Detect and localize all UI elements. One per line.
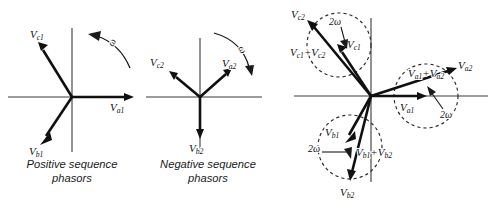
phasor-label-va1-p1: Va1: [110, 101, 124, 115]
phasor-label-vc1-p3: Vc1: [347, 38, 361, 52]
phasor-vc1-p1: [38, 42, 72, 97]
phasor-figure: Va1 Vc1 Vb1 ω: [0, 0, 495, 210]
panel-combined-sequence: Va1 Va2 Va1+Va2 2ω: [290, 8, 488, 200]
resultant-label-c-p3: Vc1+Vc2: [290, 46, 325, 60]
phasor-label-vb2-p3: Vb2: [340, 186, 355, 200]
phasor-label-vc2-p2: Vc2: [150, 56, 164, 70]
rate-label-b-p3: 2ω: [308, 143, 320, 154]
phasor-vb1-p1: [40, 97, 72, 145]
phasor-vb2-p2: [196, 97, 204, 139]
rate-leader-b-p3: [322, 147, 352, 159]
rate-label-a-p3: 2ω: [440, 109, 452, 120]
phasor-label-vc1-p1: Vc1: [30, 28, 44, 42]
caption-positive-sequence: Positive sequence phasors: [6, 158, 138, 185]
phasor-label-va1-p3: Va1: [400, 101, 414, 115]
phasor-label-vc2-p3: Vc2: [291, 8, 305, 22]
phasor-vc2-p2: [169, 71, 200, 97]
rate-leader-a-p3: [427, 86, 443, 109]
phasor-va2-p2: [200, 68, 232, 97]
panel-positive-sequence: Va1 Vc1 Vb1 ω: [8, 28, 134, 159]
resultant-label-b-p3: Vb1+Vb2: [356, 146, 392, 160]
rotation-arc-ccw-p1: [88, 31, 130, 68]
panel-negative-sequence: Va2 Vc2 Vb2 ω: [146, 33, 262, 156]
caption-negative-sequence: Negative sequence phasors: [140, 158, 276, 185]
rate-label-c-p3: 2ω: [329, 16, 341, 27]
phasor-vc2-p3: [307, 20, 371, 96]
phasor-label-va2-p2: Va2: [222, 57, 237, 71]
phasor-label-va2-p3: Va2: [458, 59, 473, 73]
phasor-label-vb2-p2: Vb2: [189, 142, 204, 156]
phasor-label-vb1-p3: Vb1: [325, 126, 339, 140]
phasor-va1-p1: [72, 93, 134, 101]
rotation-label-omega-p1: ω: [105, 37, 118, 48]
rotation-label-omega-p2: ω: [236, 44, 249, 55]
